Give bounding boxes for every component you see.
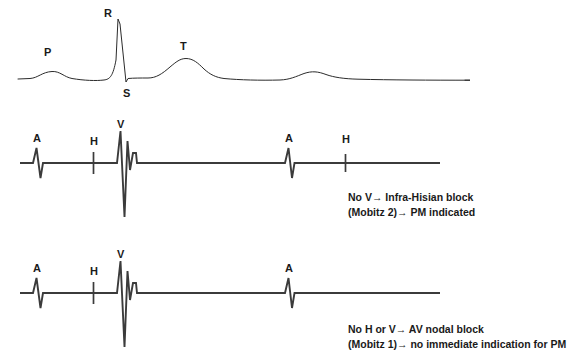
egm2-label-a-second: A	[285, 263, 293, 274]
electrophysiology-figure: P R T S A H V A H No V→ Infra-Hisian blo…	[0, 0, 575, 358]
ecg-label-p: P	[44, 47, 52, 58]
egm2-label-h-first: H	[90, 266, 98, 277]
annotation-infrahisian-line2: (Mobitz 2)→ PM indicated	[348, 205, 475, 220]
egm1-label-h-first: H	[90, 136, 98, 147]
egm2-label-v: V	[117, 249, 125, 260]
his-electrogram-mobitz2-waveform	[0, 110, 575, 238]
annotation-av-nodal-block: No H or V→ AV nodal block (Mobitz 1)→ no…	[348, 322, 566, 352]
surface-ecg-waveform	[0, 0, 575, 110]
his-electrogram-mobitz1-panel: A H V A No H or V→ AV nodal block (Mobit…	[0, 238, 575, 358]
annotation-av-nodal-line1: No H or V→ AV nodal block	[348, 322, 566, 337]
ecg-label-s: S	[123, 88, 131, 99]
ecg-label-r: R	[104, 8, 112, 19]
egm1-label-a-second: A	[285, 133, 293, 144]
annotation-infrahisian-line1: No V→ Infra-Hisian block	[348, 190, 475, 205]
surface-ecg-panel: P R T S	[0, 0, 575, 110]
ecg-label-t: T	[180, 41, 187, 52]
his-electrogram-mobitz2-panel: A H V A H No V→ Infra-Hisian block (Mobi…	[0, 110, 575, 238]
egm1-label-v: V	[117, 119, 125, 130]
annotation-infrahisian-block: No V→ Infra-Hisian block (Mobitz 2)→ PM …	[348, 190, 475, 220]
egm1-label-h-second: H	[342, 134, 350, 145]
egm2-label-a-first: A	[33, 263, 41, 274]
annotation-av-nodal-line2: (Mobitz 1)→ no immediate indication for …	[348, 337, 566, 352]
egm1-label-a-first: A	[33, 133, 41, 144]
